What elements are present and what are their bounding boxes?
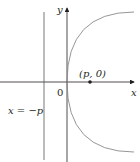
parabola-diagram: y x 0 (p, 0) x = −p xyxy=(0,0,140,162)
origin-label: 0 xyxy=(57,87,63,98)
y-axis-label: y xyxy=(56,4,63,15)
x-axis-label: x xyxy=(131,87,137,98)
directrix-label: x = −p xyxy=(8,105,44,116)
focus-label: (p, 0) xyxy=(79,68,106,79)
focus-point xyxy=(88,80,92,84)
